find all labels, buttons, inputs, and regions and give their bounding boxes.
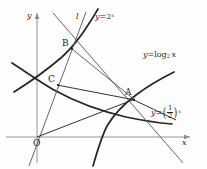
log2-fn: log — [154, 50, 167, 59]
curve-label-log2: y=log2x — [143, 51, 176, 59]
half-paren-close: ) — [174, 107, 177, 119]
math-figure: y x O A B C l y=2x y=log2x y=(12)x — [0, 0, 207, 169]
curve-label-log2-text: y=log2x — [143, 51, 176, 59]
point-b-marker — [71, 48, 73, 50]
curve-label-half-text: y=(12)x — [151, 105, 181, 120]
curve-label-half: y=(12)x — [151, 105, 181, 120]
point-a-marker — [133, 99, 135, 101]
half-paren-open: ( — [163, 107, 166, 119]
y-axis-arrow — [35, 13, 40, 19]
curve-label-exp2: y=2x — [95, 13, 114, 21]
half-numerator: 1 — [167, 105, 173, 112]
y-axis-label: y — [27, 12, 32, 20]
half-fraction: 12 — [167, 105, 173, 120]
half-exponent: x — [178, 108, 181, 114]
half-eq: = — [156, 108, 163, 117]
point-markers — [57, 48, 135, 101]
x-axis-label: x — [182, 139, 187, 147]
exp2-exponent: x — [111, 12, 114, 18]
point-label-c: C — [48, 75, 55, 84]
line-l-label: l — [76, 13, 79, 21]
half-denominator: 2 — [167, 112, 173, 120]
point-label-a: A — [125, 88, 132, 97]
point-c-marker — [57, 84, 59, 86]
log2-arg: x — [170, 50, 176, 59]
point-label-b: B — [62, 39, 69, 48]
origin-label: O — [33, 139, 40, 148]
figure-canvas — [0, 0, 207, 169]
curve-label-exp2-text: y=2x — [95, 13, 114, 21]
curve-half — [12, 63, 172, 124]
